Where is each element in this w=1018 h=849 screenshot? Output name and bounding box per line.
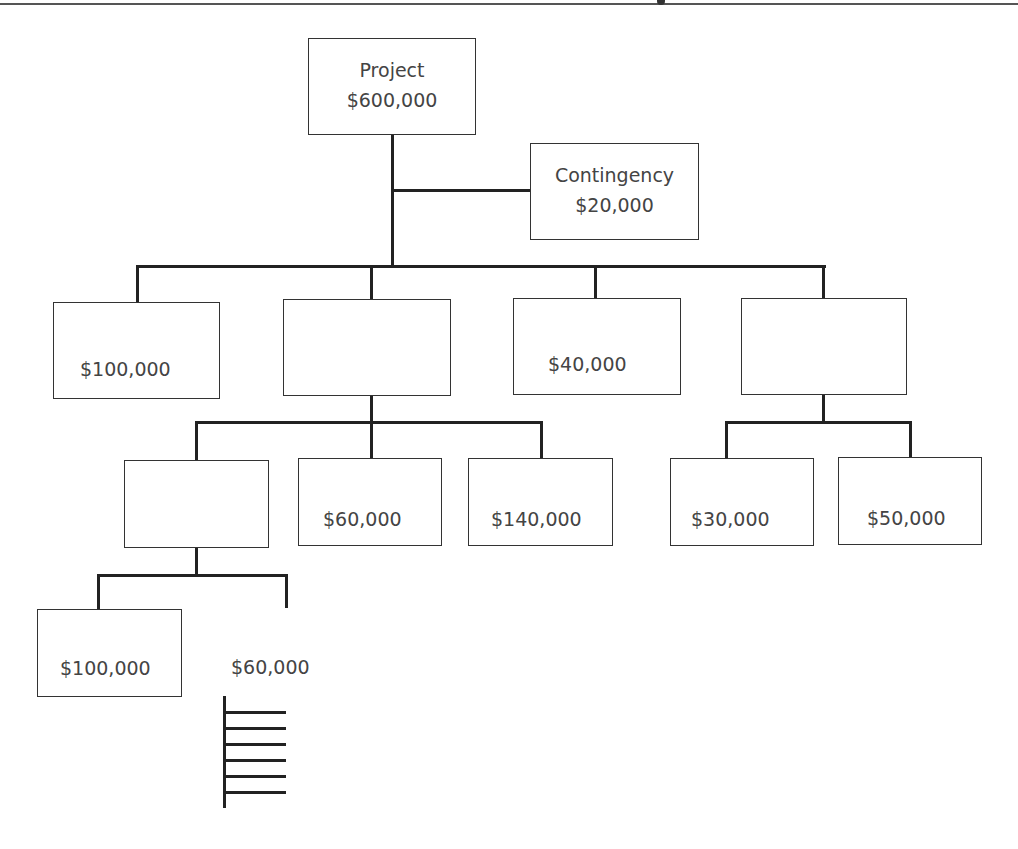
- comb-tick: [223, 727, 286, 730]
- connector: [195, 421, 198, 460]
- level1-amount-3: $40,000: [548, 353, 627, 375]
- level1-amount-1: $100,000: [80, 358, 171, 380]
- contingency-box: Contingency $20,000: [530, 143, 699, 240]
- comb-tick: [223, 775, 286, 778]
- connector: [136, 265, 139, 302]
- connector: [370, 265, 373, 299]
- connector: [540, 421, 543, 458]
- connector: [285, 574, 288, 608]
- connector: [391, 135, 394, 268]
- connector: [97, 574, 288, 577]
- contingency-amount: $20,000: [531, 194, 698, 216]
- project-box: Project $600,000: [308, 38, 476, 135]
- level3-amount-f: $100,000: [60, 657, 151, 679]
- comb-tick: [223, 743, 286, 746]
- level2-amount-b: $60,000: [323, 508, 402, 530]
- project-label: Project: [309, 59, 475, 81]
- project-amount: $600,000: [309, 89, 475, 111]
- comb-tick: [223, 759, 286, 762]
- connector: [97, 574, 100, 609]
- connector: [195, 421, 543, 424]
- level2-box-b: $60,000: [298, 458, 442, 546]
- connector: [725, 421, 912, 424]
- connector: [725, 421, 728, 458]
- connector: [136, 265, 826, 268]
- level2-box-e: $50,000: [838, 457, 982, 545]
- level1-box-3: $40,000: [513, 298, 681, 395]
- level2-box-c: $140,000: [468, 458, 613, 546]
- contingency-label: Contingency: [531, 164, 698, 186]
- comb-tick: [223, 711, 286, 714]
- connector: [370, 396, 373, 458]
- connector: [822, 265, 825, 298]
- connector: [391, 189, 530, 192]
- connector: [594, 265, 597, 298]
- connector: [909, 421, 912, 457]
- connector: [195, 548, 198, 576]
- level2-box-d: $30,000: [670, 458, 814, 546]
- top-rule: [0, 3, 1018, 5]
- level3-box-f: $100,000: [37, 609, 182, 697]
- comb-tick: [223, 791, 286, 794]
- level2-amount-e: $50,000: [867, 507, 946, 529]
- connector: [822, 395, 825, 423]
- level2-amount-d: $30,000: [691, 508, 770, 530]
- level1-box-2: [283, 299, 451, 396]
- level1-box-1: $100,000: [53, 302, 220, 399]
- level3-amount-g: $60,000: [231, 656, 310, 678]
- level2-amount-c: $140,000: [491, 508, 582, 530]
- level1-box-4: [741, 298, 907, 395]
- level2-box-a: [124, 460, 269, 548]
